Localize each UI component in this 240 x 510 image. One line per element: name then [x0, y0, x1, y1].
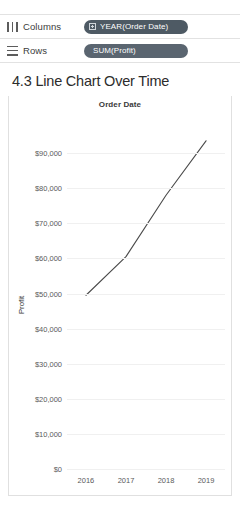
bottom-caption-clipped: [12, 500, 232, 510]
plot-wrapper: Profit $0$10,000$20,000$30,000$40,000$50…: [9, 114, 231, 495]
columns-shelf-label: Columns: [0, 21, 84, 32]
gridline: [67, 153, 225, 154]
calendar-plus-icon: [89, 23, 96, 30]
gridline: [67, 399, 225, 400]
rows-label-text: Rows: [23, 45, 47, 56]
y-axis-tick-label: $80,000: [35, 184, 62, 193]
columns-shelf-track[interactable]: YEAR(Order Date): [84, 15, 240, 38]
gridline: [67, 329, 225, 330]
y-axis-tick-label: $20,000: [35, 394, 62, 403]
rows-shelf-label: Rows: [0, 45, 84, 56]
gridline: [67, 434, 225, 435]
x-axis-tick-label: 2017: [118, 476, 135, 485]
plot-area: $0$10,000$20,000$30,000$40,000$50,000$60…: [67, 118, 225, 469]
gridline: [67, 294, 225, 295]
top-blank-strip: [0, 0, 240, 14]
chart-header-title: Order Date: [9, 96, 231, 109]
y-axis-tick-label: $90,000: [35, 149, 62, 158]
rows-icon: [7, 46, 18, 56]
gridline: [67, 469, 225, 470]
y-axis-tick-label: $0: [54, 465, 62, 474]
y-axis-tick-label: $30,000: [35, 359, 62, 368]
pill-sum-profit[interactable]: SUM(Profit): [84, 44, 188, 58]
columns-label-text: Columns: [23, 21, 61, 32]
gridline: [67, 223, 225, 224]
rows-shelf-track[interactable]: SUM(Profit): [84, 39, 240, 62]
chart-container: Order Date Profit $0$10,000$20,000$30,00…: [8, 96, 232, 496]
y-axis-tick-label: $40,000: [35, 324, 62, 333]
y-axis-tick-label: $10,000: [35, 429, 62, 438]
pill-year-order-date[interactable]: YEAR(Order Date): [84, 20, 188, 34]
gridline: [67, 364, 225, 365]
page-title: 4.3 Line Chart Over Time: [0, 63, 240, 89]
pill-sum-profit-label: SUM(Profit): [93, 46, 136, 55]
shelf-area: Columns YEAR(Order Date) Rows SUM(Profit…: [0, 14, 240, 63]
pill-year-order-date-label: YEAR(Order Date): [100, 22, 168, 31]
y-axis-tick-label: $70,000: [35, 219, 62, 228]
line-path: [86, 141, 206, 295]
y-axis-tick-label: $60,000: [35, 254, 62, 263]
x-axis-tick-label: 2016: [78, 476, 95, 485]
x-axis-tick-label: 2019: [198, 476, 215, 485]
gridline: [67, 258, 225, 259]
columns-shelf[interactable]: Columns YEAR(Order Date): [0, 15, 240, 39]
y-axis-title: Profit: [17, 295, 26, 314]
y-axis-tick-label: $50,000: [35, 289, 62, 298]
columns-icon: [7, 22, 18, 32]
gridline: [67, 188, 225, 189]
x-axis-tick-label: 2018: [158, 476, 175, 485]
rows-shelf[interactable]: Rows SUM(Profit): [0, 39, 240, 63]
